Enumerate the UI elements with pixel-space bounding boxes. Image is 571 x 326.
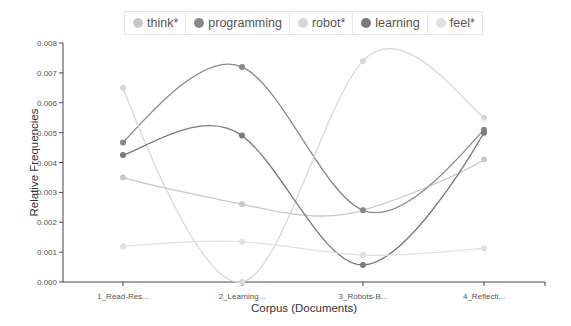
y-tick-label: 0.007 xyxy=(37,69,58,78)
series-line-learning xyxy=(123,126,484,265)
x-tick-label: 2_Learning... xyxy=(219,292,266,301)
data-point-think xyxy=(239,201,245,207)
data-point-feel xyxy=(481,245,487,251)
x-tick-label: 3_Robots-B... xyxy=(339,292,388,301)
x-tick-label: 1_Read-Res... xyxy=(97,292,149,301)
data-point-programming xyxy=(239,64,245,70)
y-tick-label: 0.005 xyxy=(37,129,58,138)
y-tick-label: 0.006 xyxy=(37,99,58,108)
data-point-feel xyxy=(360,252,366,258)
x-tick-label: 4_Reflecti... xyxy=(463,292,505,301)
data-point-feel xyxy=(120,243,126,249)
data-point-learning xyxy=(120,152,126,158)
y-tick-label: 0.000 xyxy=(37,278,58,287)
y-tick-label: 0.003 xyxy=(37,188,58,197)
line-chart: 0.0000.0010.0020.0030.0040.0050.0060.007… xyxy=(0,0,571,326)
y-tick-label: 0.002 xyxy=(37,218,58,227)
data-point-feel xyxy=(239,239,245,245)
data-point-learning xyxy=(360,262,366,268)
series-line-feel xyxy=(123,241,484,255)
y-tick-label: 0.004 xyxy=(37,159,58,168)
x-axis-title: Corpus (Documents) xyxy=(251,302,357,314)
data-point-programming xyxy=(120,139,126,145)
data-point-learning xyxy=(481,130,487,136)
data-point-robot xyxy=(360,58,366,64)
data-point-programming xyxy=(360,207,366,213)
y-axis-title: Relative Frequencies xyxy=(28,108,40,216)
data-point-robot xyxy=(239,279,245,285)
data-point-think xyxy=(120,174,126,180)
y-tick-label: 0.008 xyxy=(37,39,58,48)
data-point-robot xyxy=(481,115,487,121)
data-point-robot xyxy=(120,85,126,91)
y-tick-label: 0.001 xyxy=(37,248,58,257)
data-point-learning xyxy=(239,133,245,139)
series-line-robot xyxy=(123,49,484,283)
data-point-think xyxy=(481,157,487,163)
series-line-think xyxy=(123,160,484,217)
